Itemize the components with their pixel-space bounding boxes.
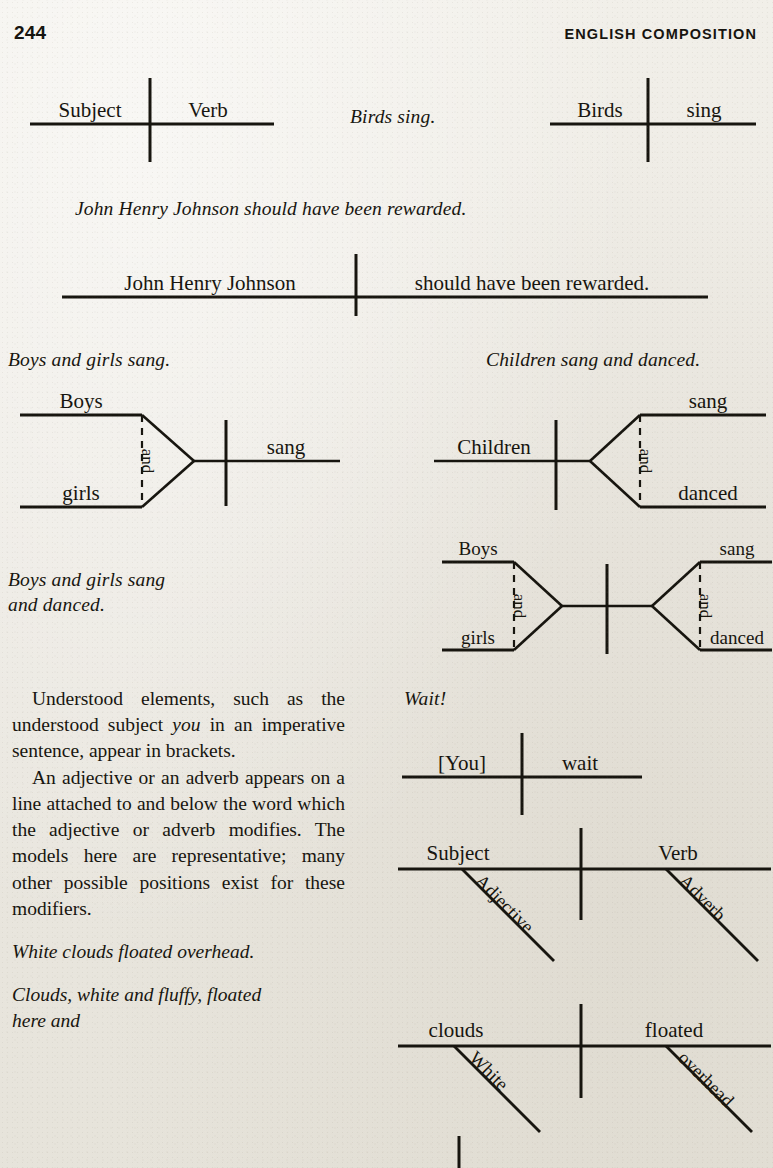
diagram-label-conjunction: and [138,449,157,474]
example-boys-girls-sang: Boys and girls sang. [8,347,170,372]
diagram-label-subject-a: Boys [458,538,497,559]
example-boys-girls-sang-danced: Boys and girls sang and danced. [8,567,165,618]
diagram-compound-predicate: Children sang danced and [432,388,770,528]
running-head: ENGLISH COMPOSITION [565,26,758,42]
diagram-label-verb: floated [645,1018,704,1042]
example-clouds-white-fluffy: Clouds, white and fluffy, floated here a… [12,982,345,1034]
diagram-compound-subject: Boys girls and sang [14,388,344,528]
page-number: 244 [14,22,46,44]
example-white-clouds: White clouds floated overhead. [12,939,345,965]
diverge-lower [652,606,700,650]
paragraph-adjective-adverb: An adjective or an adverb appears on a l… [12,765,345,922]
diagram-label-adverb: Adverb [675,870,730,925]
diagram-label-subject: Birds [577,98,623,122]
diagram-label-subject: Children [457,435,531,459]
diverge-upper [652,562,700,606]
diagram-label-verb: Verb [658,841,698,865]
diagram-label-verb: should have been rewarded. [415,271,649,295]
diagram-subject-verb-template: Subject Verb [28,74,278,166]
diagram-label-conjunction-left: and [510,594,529,619]
diagram-john-henry: John Henry Johnson should have been rewa… [60,250,712,318]
para1-emphasis: you [172,714,200,735]
diagram-label-subject: Subject [427,841,490,865]
diagram-birds-sing: Birds sing [548,74,760,166]
diagram-next-partial-stub [454,1136,466,1168]
diagram-label-subject-a: Boys [59,389,102,413]
body-text-column: Understood elements, such as the underst… [12,686,345,1035]
diagram-label-verb-a: sang [720,538,755,559]
diagram-label-subject: [You] [438,751,486,775]
diagram-imperative-you-wait: [You] wait [400,729,650,819]
diagram-label-verb-b: danced [710,627,764,648]
diagram-label-verb: sing [686,98,722,122]
diverge-upper [590,415,640,461]
diagram-label-verb-b: danced [678,481,738,505]
paragraph-understood-elements: Understood elements, such as the underst… [12,686,345,765]
example-birds-sing: Birds sing. [350,104,435,129]
diagram-label-adjective: White [465,1047,513,1095]
diagram-compound-both: Boys girls and sang danced and [440,536,773,664]
diagram-label-adverb: overhead [674,1047,738,1111]
diverge-lower [590,461,640,507]
diagram-label-subject: Subject [59,98,122,122]
diagram-label-conjunction-right: and [696,594,715,619]
diagram-label-conjunction: and [636,449,655,474]
diagram-label-subject: clouds [429,1018,484,1042]
diagram-modifier-template: Subject Verb Adjective Adverb [396,820,773,960]
example-children-sang-danced: Children sang and danced. [486,347,700,372]
diagram-label-verb: sang [267,435,306,459]
diagram-label-subject-b: girls [461,627,495,648]
diagram-label-subject: John Henry Johnson [124,271,296,295]
diagram-label-adjective: Adjective [471,870,538,937]
diagram-label-verb: Verb [188,98,228,122]
diagram-label-subject-b: girls [62,481,99,505]
example-wait: Wait! [404,686,446,711]
diagram-label-verb: wait [562,751,598,775]
example-john-henry: John Henry Johnson should have been rewa… [75,196,466,221]
diagram-clouds-floated: clouds floated White overhead [396,1000,773,1140]
diagram-label-verb-a: sang [689,389,728,413]
